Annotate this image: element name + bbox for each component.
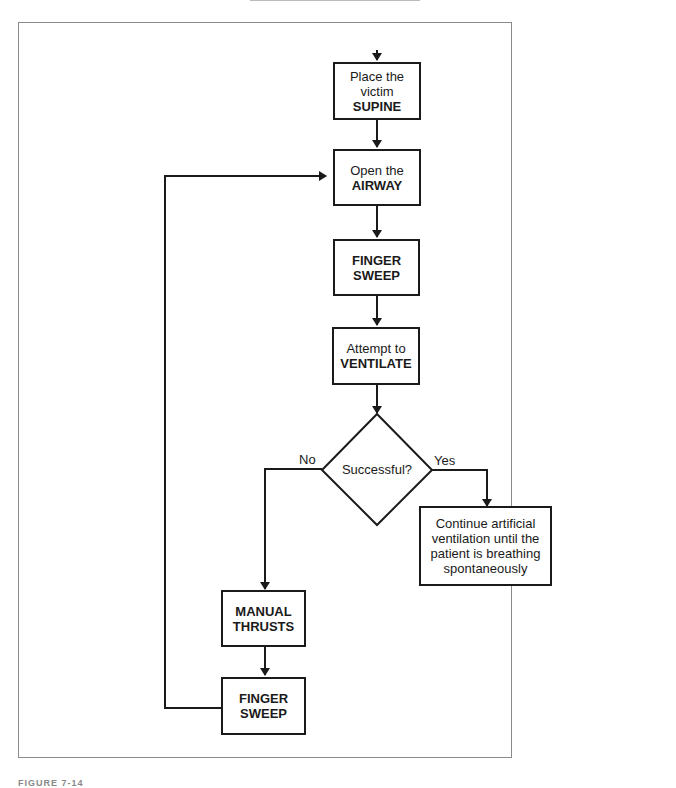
node-keyword: SWEEP xyxy=(240,706,287,721)
node-place-supine: Place the victim SUPINE xyxy=(333,62,421,120)
node-manual-thrusts: MANUAL THRUSTS xyxy=(221,590,306,647)
node-text: ventilation until the xyxy=(432,531,540,546)
node-text: victim xyxy=(360,84,393,99)
node-text: Continue artificial xyxy=(436,516,536,531)
decision-successful: Successful? xyxy=(338,462,416,477)
node-keyword: VENTILATE xyxy=(340,356,411,371)
node-keyword: FINGER xyxy=(239,691,288,706)
node-text: Open the xyxy=(350,163,404,178)
node-text: Attempt to xyxy=(346,341,405,356)
node-finger-sweep-2: FINGER SWEEP xyxy=(221,677,306,735)
node-keyword: MANUAL xyxy=(235,604,291,619)
node-keyword: AIRWAY xyxy=(352,178,403,193)
figure-caption: FIGURE 7-14 xyxy=(18,778,84,788)
node-text: spontaneously xyxy=(444,561,528,576)
node-keyword: THRUSTS xyxy=(233,619,294,634)
edge-label-no: No xyxy=(299,452,316,467)
node-continue-ventilation: Continue artificial ventilation until th… xyxy=(419,506,552,586)
node-keyword: SWEEP xyxy=(353,268,400,283)
node-keyword: FINGER xyxy=(352,253,401,268)
node-attempt-ventilate: Attempt to VENTILATE xyxy=(332,327,420,385)
node-finger-sweep-1: FINGER SWEEP xyxy=(333,239,420,296)
node-text: Place the xyxy=(350,69,404,84)
node-keyword: SUPINE xyxy=(353,99,401,114)
node-text: patient is breathing xyxy=(431,546,541,561)
node-open-airway: Open the AIRWAY xyxy=(333,149,421,206)
edge-label-yes: Yes xyxy=(434,453,455,468)
